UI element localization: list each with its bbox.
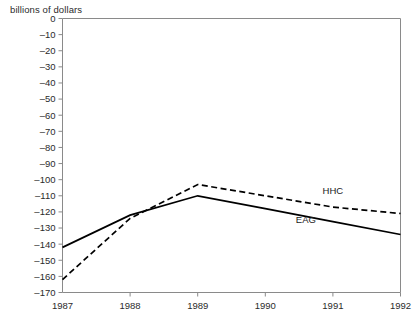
x-tick-label: 1988: [120, 300, 141, 311]
x-axis-ticks: 198719881989199019911992: [52, 293, 411, 311]
y-tick-label: –120: [34, 206, 55, 217]
y-tick-label: –90: [40, 158, 56, 169]
series-line-hhc: [63, 185, 401, 280]
y-tick-label: –40: [40, 77, 56, 88]
y-tick-label: –100: [34, 174, 55, 185]
y-tick-label: –70: [40, 126, 56, 137]
series-line-eag: [63, 196, 401, 248]
y-tick-label: –10: [40, 29, 56, 40]
y-tick-label: –140: [34, 239, 55, 250]
series-label-hhc: HHC: [323, 185, 344, 196]
plot-frame-border: [63, 19, 401, 293]
y-axis-ticks: 0–10–20–30–40–50–60–70–80–90–100–110–120…: [34, 13, 62, 298]
y-tick-label: –160: [34, 271, 55, 282]
y-tick-label: –110: [35, 190, 55, 201]
x-tick-label: 1989: [187, 300, 208, 311]
plot-frame: [63, 19, 401, 293]
y-tick-label: –30: [40, 61, 56, 72]
x-tick-label: 1990: [255, 300, 276, 311]
y-tick-label: –130: [34, 222, 55, 233]
y-tick-label: –60: [40, 110, 56, 121]
y-tick-label: 0: [50, 13, 55, 24]
y-tick-label: –170: [34, 287, 55, 298]
line-chart-plot: 0–10–20–30–40–50–60–70–80–90–100–110–120…: [0, 0, 420, 330]
y-tick-label: –150: [34, 255, 55, 266]
y-tick-label: –20: [40, 45, 56, 56]
x-tick-label: 1992: [390, 300, 411, 311]
y-tick-label: –50: [40, 93, 56, 104]
y-tick-label: –80: [40, 142, 56, 153]
data-series-group: [63, 185, 401, 280]
x-tick-label: 1991: [322, 300, 343, 311]
series-label-eag: EAG: [296, 214, 316, 225]
chart-container: billions of dollars 0–10–20–30–40–50–60–…: [0, 0, 420, 330]
x-tick-label: 1987: [52, 300, 73, 311]
